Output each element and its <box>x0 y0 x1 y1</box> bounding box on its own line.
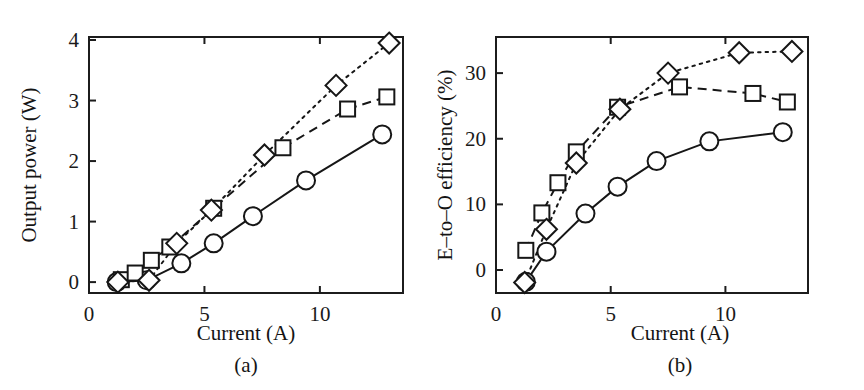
data-point-circle <box>297 171 315 189</box>
data-point-square <box>780 94 795 109</box>
data-point-square <box>745 86 760 101</box>
data-point-diamond <box>326 75 347 96</box>
data-point-diamond <box>729 42 750 63</box>
y-ticklabel: 1 <box>69 210 80 234</box>
data-point-circle <box>205 234 223 252</box>
y-ticklabel: 0 <box>476 258 487 282</box>
data-point-diamond <box>781 41 802 62</box>
panel-a-label: (a) <box>234 353 257 377</box>
data-point-square <box>275 140 290 155</box>
panel-b-ticklabels: 01020300510 <box>465 61 736 326</box>
panel-b-plot: 01020300510 Current (A) E–to–O efficienc… <box>432 0 864 390</box>
y-ticklabel: 4 <box>69 28 80 52</box>
x-ticklabel: 5 <box>605 302 616 326</box>
data-point-circle <box>648 152 666 170</box>
data-point-circle <box>172 254 190 272</box>
x-ticklabel: 10 <box>309 302 330 326</box>
data-point-circle <box>774 123 792 141</box>
data-point-diamond <box>536 219 557 240</box>
data-point-circle <box>609 178 627 196</box>
data-point-circle <box>373 125 391 143</box>
panel-a: 012340510 Current (A) Output power (W) (… <box>0 0 432 390</box>
data-point-square <box>672 79 687 94</box>
x-ticklabel: 0 <box>491 302 502 326</box>
panel-b-label: (b) <box>668 353 693 377</box>
panel-b-ylabel: E–to–O efficiency (%) <box>433 70 457 261</box>
data-point-circle <box>576 205 594 223</box>
panel-a-ticks <box>89 37 320 293</box>
panel-b-series <box>514 41 802 293</box>
x-ticklabel: 0 <box>84 302 95 326</box>
panel-a-axis-box <box>89 37 403 293</box>
y-ticklabel: 2 <box>69 149 80 173</box>
panel-a-plot: 012340510 Current (A) Output power (W) (… <box>0 0 432 390</box>
y-ticklabel: 20 <box>465 127 486 151</box>
figure-container: 012340510 Current (A) Output power (W) (… <box>0 0 864 390</box>
y-ticklabel: 10 <box>465 192 486 216</box>
data-point-square <box>144 253 159 268</box>
data-point-square <box>340 102 355 117</box>
y-ticklabel: 3 <box>69 89 80 113</box>
data-point-square <box>518 243 533 258</box>
panel-a-series <box>107 33 399 293</box>
series-line-diamond <box>118 43 389 282</box>
data-point-circle <box>537 243 555 261</box>
data-point-circle <box>700 132 718 150</box>
data-point-square <box>550 175 565 190</box>
panel-b: 01020300510 Current (A) E–to–O efficienc… <box>432 0 864 390</box>
y-ticklabel: 30 <box>465 61 486 85</box>
series-line-square <box>121 97 387 280</box>
y-ticklabel: 0 <box>69 270 80 294</box>
data-point-diamond <box>379 33 400 54</box>
data-point-circle <box>244 207 262 225</box>
panel-a-xlabel: Current (A) <box>197 321 296 345</box>
panel-a-frame <box>89 37 403 293</box>
panel-b-xlabel: Current (A) <box>631 321 730 345</box>
data-point-square <box>379 89 394 104</box>
panel-a-ylabel: Output power (W) <box>17 87 41 242</box>
